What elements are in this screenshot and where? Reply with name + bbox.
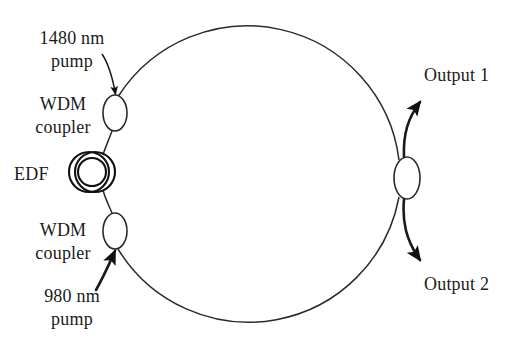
label-wdm-coupler-bottom: WDM coupler xyxy=(18,219,108,265)
output-2-lead xyxy=(404,199,420,260)
output-1-lead xyxy=(404,102,420,157)
label-edf: EDF xyxy=(14,163,76,186)
label-wdm-coupler-top: WDM coupler xyxy=(18,93,108,139)
fiber-edf-to-wdm-bottom xyxy=(103,190,112,213)
label-1480nm-pump: 1480 nm pump xyxy=(18,27,126,73)
ring-cavity-path xyxy=(118,26,399,322)
ring-arc-top-right xyxy=(119,26,400,160)
label-980nm-pump: 980 nm pump xyxy=(18,285,126,331)
label-output-1: Output 1 xyxy=(424,64,524,87)
ring-arc-bottom-right xyxy=(118,197,399,322)
figure-container: 1480 nm pump WDM coupler EDF WDM coupler… xyxy=(0,0,529,353)
left-cavity-fiber xyxy=(103,131,112,213)
output-coupler-icon xyxy=(394,157,420,199)
edf-loop-3 xyxy=(78,158,106,186)
label-output-2: Output 2 xyxy=(424,273,524,296)
